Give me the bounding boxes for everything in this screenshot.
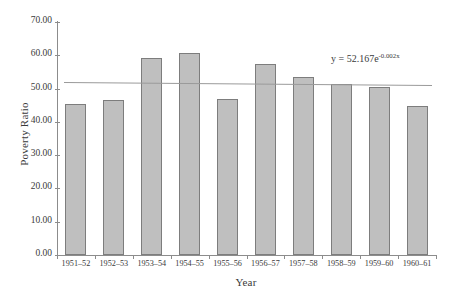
- bar: [255, 64, 276, 255]
- y-axis-tick-label: 30.00: [31, 148, 52, 158]
- y-axis-tick-label: 40.00: [31, 115, 52, 125]
- bar: [407, 106, 428, 255]
- x-axis-tick-label: 1953–54: [133, 259, 171, 268]
- x-axis-tick-label: 1960–61: [398, 259, 436, 268]
- y-axis-title: Poverty Ratio: [18, 64, 30, 204]
- x-axis-title: Year: [56, 276, 436, 288]
- bar: [141, 58, 162, 255]
- bar: [293, 77, 314, 255]
- x-axis-tick-label: 1957–58: [284, 259, 322, 268]
- equation-exponent: -0.002x: [379, 52, 400, 59]
- x-axis-tick-label: 1954–55: [171, 259, 209, 268]
- bar: [103, 100, 124, 255]
- x-axis-tick-label: 1952–53: [95, 259, 133, 268]
- y-axis-tick-label: 70.00: [31, 15, 52, 25]
- bar: [369, 87, 390, 255]
- equation-base: y = 52.167e: [331, 53, 379, 64]
- exponential-trendline: [64, 82, 432, 86]
- x-axis-tick-label: 1956–57: [247, 259, 285, 268]
- x-axis-tick-label: 1955–56: [209, 259, 247, 268]
- y-axis-tick-label: 10.00: [31, 215, 52, 225]
- x-axis-tick-label: 1951–52: [57, 259, 95, 268]
- trendline-equation-label: y = 52.167e-0.002x: [331, 52, 400, 64]
- x-axis-tick-label: 1958–59: [322, 259, 360, 268]
- x-axis-tick-label: 1959–60: [360, 259, 398, 268]
- bar: [65, 104, 86, 255]
- y-axis-tick-label: 60.00: [31, 48, 52, 58]
- y-axis-tick-label: 20.00: [31, 181, 52, 191]
- bar: [331, 84, 352, 255]
- poverty-ratio-bar-chart: Poverty Ratio 0.0010.0020.0030.0040.0050…: [0, 0, 463, 297]
- y-axis-tick-label: 50.00: [31, 82, 52, 92]
- x-axis-tick-mark: [436, 255, 437, 259]
- bar: [217, 99, 238, 255]
- y-axis-tick-label: 0.00: [35, 248, 52, 258]
